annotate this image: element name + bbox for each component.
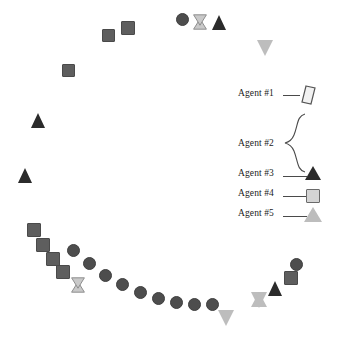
data-point-circle	[152, 292, 165, 305]
data-point-square	[121, 21, 135, 35]
legend-brace-agent2	[284, 113, 306, 175]
legend-leader-agent1	[283, 95, 300, 96]
data-point-circle	[99, 269, 112, 282]
legend-label-agent4: Agent #4	[238, 188, 274, 198]
figure-canvas: Agent #1 Agent #2 Agent #3 Agent #4 Agen…	[0, 0, 347, 351]
data-point-circle	[116, 278, 129, 291]
legend-label-agent1: Agent #1	[238, 88, 274, 98]
data-point-circle	[188, 298, 201, 311]
data-point-square	[284, 271, 298, 285]
data-point-circle	[67, 244, 80, 257]
data-point-triangle-down	[218, 310, 234, 326]
data-point-triangle-up	[18, 168, 32, 183]
legend-marker-agent3	[305, 166, 321, 180]
data-point-hourglass	[192, 14, 208, 30]
data-point-square	[62, 64, 75, 77]
legend-label-agent3: Agent #3	[238, 168, 274, 178]
legend-leader-agent3	[283, 176, 307, 177]
data-point-square	[46, 252, 60, 266]
data-point-circle	[134, 286, 147, 299]
data-point-triangle-up-light	[251, 292, 267, 307]
data-point-circle	[176, 13, 189, 26]
data-point-square	[27, 223, 41, 237]
data-point-circle	[170, 296, 183, 309]
data-point-triangle-up	[268, 281, 282, 296]
data-point-square	[56, 265, 70, 279]
data-point-circle	[290, 258, 303, 271]
data-point-triangle-up	[31, 113, 45, 128]
data-point-triangle-down	[257, 40, 273, 56]
data-point-square	[36, 238, 50, 252]
data-point-triangle-up	[212, 15, 226, 30]
legend-leader-agent4	[283, 196, 307, 197]
legend-label-agent5: Agent #5	[238, 208, 274, 218]
data-point-circle	[83, 257, 96, 270]
legend-marker-agent4	[306, 189, 320, 203]
data-point-hourglass	[70, 277, 86, 293]
legend-marker-agent1	[301, 85, 316, 105]
data-point-circle	[206, 298, 219, 311]
legend-label-agent2: Agent #2	[238, 138, 274, 148]
data-point-square	[102, 29, 115, 42]
legend-marker-agent5	[304, 207, 322, 222]
